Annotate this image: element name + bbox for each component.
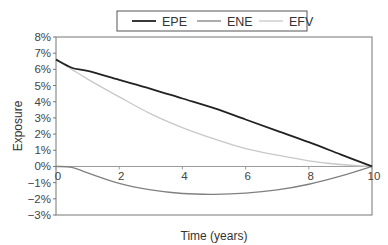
x-tick-label: 0 (55, 170, 61, 182)
y-tick-label: 8% (34, 31, 51, 43)
y-tick-label: 5% (34, 80, 51, 92)
x-tick-label: 8 (308, 170, 314, 182)
y-axis-title: Exposure (11, 100, 25, 151)
y-tick-label: 1% (34, 144, 51, 156)
legend: EPEENEEFV (117, 11, 314, 31)
y-tick-label: 6% (34, 63, 51, 75)
legend-label-ene: ENE (227, 15, 253, 29)
legend-label-epe: EPE (162, 15, 187, 29)
legend-label-efv: EFV (289, 15, 314, 29)
x-tick-label: 4 (181, 170, 188, 182)
y-tick-label: 2% (34, 128, 51, 140)
y-axis: 8%7%6%5%4%3%2%1%0%−1%−2%−3% (28, 31, 56, 221)
y-tick-label: −3% (28, 209, 51, 221)
y-tick-label: 3% (34, 112, 51, 124)
y-tick-label: 4% (34, 96, 51, 108)
x-tick-label: 6 (244, 170, 250, 182)
plot-area (56, 37, 372, 215)
y-tick-label: 0% (34, 160, 51, 172)
y-tick-label: −1% (28, 177, 51, 189)
y-tick-label: 7% (34, 47, 51, 59)
x-tick-label: 10 (368, 170, 381, 182)
x-axis-title: Time (years) (181, 229, 248, 243)
x-tick-label: 2 (118, 170, 124, 182)
exposure-chart: EPEENEEFV 8%7%6%5%4%3%2%1%0%−1%−2%−3% 02… (0, 0, 388, 245)
y-tick-label: −2% (28, 193, 51, 205)
